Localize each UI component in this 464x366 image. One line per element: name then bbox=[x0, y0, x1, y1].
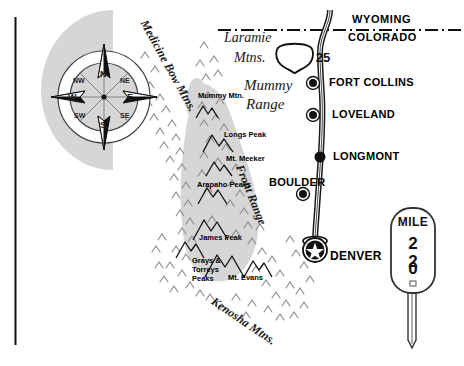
interstate-shield-number[interactable]: 25 bbox=[306, 50, 340, 65]
compass-label-n: N bbox=[100, 69, 107, 79]
city-marker-loveland[interactable] bbox=[307, 109, 320, 122]
range-label-mummy-range: Range bbox=[246, 97, 284, 113]
compass-label-nw: NW bbox=[73, 77, 85, 84]
city-label-denver[interactable]: DENVER bbox=[330, 250, 382, 263]
city-marker-longmont[interactable] bbox=[315, 152, 326, 163]
city-label-fort-collins[interactable]: FORT COLLINS bbox=[329, 77, 414, 89]
state-label-wyoming: WYOMING bbox=[352, 14, 411, 26]
compass-label-se: SE bbox=[120, 112, 129, 119]
interstate-25-route bbox=[315, 10, 330, 242]
compass-label-ne: NE bbox=[120, 77, 130, 84]
city-marker-boulder[interactable] bbox=[297, 188, 310, 201]
peak-label-arapaho-peaks: Arapaho Peaks bbox=[197, 181, 251, 189]
peak-label-longs-peak: Longs Peak bbox=[224, 131, 266, 139]
city-label-loveland[interactable]: LOVELAND bbox=[332, 109, 395, 121]
compass-label-w: W bbox=[68, 92, 77, 102]
mile-marker-bolt-hole bbox=[410, 281, 416, 286]
city-label-boulder[interactable]: BOULDER bbox=[269, 177, 326, 189]
peak-label-peaks: Peaks bbox=[192, 275, 214, 283]
range-label-mummy: Mummy bbox=[244, 78, 292, 94]
range-label-laramie-mtns: Mtns. bbox=[234, 51, 266, 66]
compass-label-sw: SW bbox=[74, 112, 85, 119]
city-marker-fort-collins[interactable] bbox=[307, 77, 320, 90]
peak-label-mummy-mtn: Mummy Mtn. bbox=[198, 92, 244, 100]
city-marker-denver-capital[interactable] bbox=[303, 237, 327, 263]
compass-label-s: S bbox=[100, 120, 106, 130]
city-label-longmont[interactable]: LONGMONT bbox=[333, 151, 400, 163]
mile-marker-word: MILE bbox=[391, 215, 435, 229]
map-canvas: WYOMING COLORADO 25 FORT COLLINS LOVELAN… bbox=[0, 0, 464, 366]
state-label-colorado: COLORADO bbox=[348, 32, 417, 44]
compass-label-e: E bbox=[127, 92, 133, 102]
peak-label-james-peak: James Peak bbox=[199, 234, 242, 242]
peak-label-mt-meeker: Mt. Meeker bbox=[226, 155, 265, 163]
mile-marker-digit-1: 2 bbox=[391, 234, 435, 254]
range-label-laramie: Laramie bbox=[224, 31, 271, 46]
peak-label-grays: Grays & bbox=[192, 257, 221, 265]
peak-label-mt-evans: Mt. Evans bbox=[228, 274, 263, 282]
peak-label-torreys: Torreys bbox=[192, 266, 219, 274]
mile-marker-digit-3: 0 bbox=[391, 259, 435, 279]
